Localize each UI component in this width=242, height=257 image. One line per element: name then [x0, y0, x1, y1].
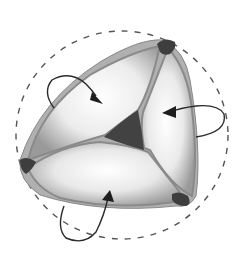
valve-diagram: [0, 0, 242, 257]
